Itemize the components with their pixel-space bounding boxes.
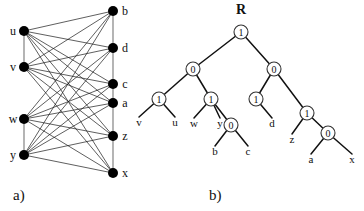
bipartite-edge [24,31,113,103]
graph-vertex-x[interactable] [108,168,118,178]
graph-vertex-label-b: b [122,4,128,18]
graph-vertex-y[interactable] [19,150,29,160]
tree-node-value-n6: 1 [305,108,310,119]
tree-root-label: R [236,2,247,17]
bipartite-edge [24,84,113,155]
graph-vertex-a[interactable] [108,98,118,108]
graph-vertex-label-v: v [10,60,16,74]
graph-vertex-label-z: z [122,129,127,143]
graph-vertex-label-a: a [122,96,128,110]
graph-vertex-v[interactable] [19,62,29,72]
bipartite-edge [24,11,113,119]
tree-leaf-b: b [212,145,218,157]
graph-vertex-w[interactable] [19,114,29,124]
panel-b-caption: b) [209,187,222,204]
tree-edge [193,32,241,69]
bipartite-edge [24,31,113,48]
bipartite-edge [24,155,113,173]
tree-leaf-d: d [269,117,275,129]
tree-node-value-n8: 0 [326,128,331,139]
tree-node-value-n1: 0 [191,64,196,75]
graph-vertex-label-c: c [122,77,127,91]
tree-leaf-c: c [246,145,251,157]
tree-leaf-x: x [349,153,355,165]
bipartite-edge [24,67,113,84]
bipartite-edge [24,67,113,103]
bipartite-edge [24,119,113,173]
tree-node-value-n5: 1 [254,94,259,105]
tree-leaf-a: a [309,153,314,165]
tree-leaf-y: y [217,117,223,129]
graph-vertex-u[interactable] [19,26,29,36]
tree-leaf-v: v [136,116,142,128]
tree-leaf-w: w [190,117,198,129]
tree-edge [274,69,307,113]
tree-node-value-n7: 0 [229,120,234,131]
graph-vertex-label-x: x [122,166,128,180]
tree-leaf-u: u [172,116,178,128]
figure-canvas: uvwybdcazxa)100111100vuwybcdzaxRb) [0,0,364,211]
graph-vertex-b[interactable] [108,6,118,16]
graph-vertex-label-u: u [10,24,16,38]
graph-vertex-c[interactable] [108,79,118,89]
tree-node-value-n2: 0 [272,64,277,75]
graph-vertex-label-w: w [9,112,18,126]
tree-node-value-n3: 1 [157,94,162,105]
graph-vertex-label-y: y [10,148,16,162]
figure-svg: uvwybdcazxa)100111100vuwybcdzaxRb) [0,0,364,211]
tree-node-value-n4: 1 [209,94,214,105]
tree-leaf-z: z [290,133,295,145]
graph-vertex-d[interactable] [108,43,118,53]
graph-vertex-z[interactable] [108,131,118,141]
tree-node-value-n0: 1 [239,27,244,38]
bipartite-edge [24,11,113,31]
panel-a-caption: a) [13,187,25,204]
graph-vertex-label-d: d [122,41,128,55]
